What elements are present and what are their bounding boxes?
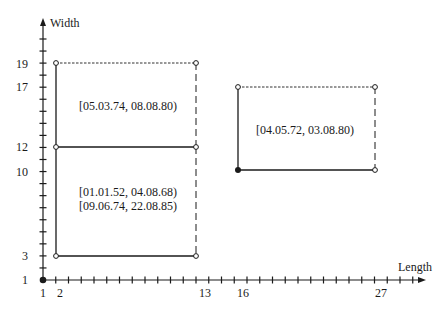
label-upper-left: [05.03.74, 08.08.80) [79,99,177,113]
region-labels: [05.03.74, 08.08.80) [01.01.52, 04.08.68… [79,99,354,213]
open-circle-icon [373,168,378,173]
y-tick-label: 1 [22,273,28,287]
diagram-canvas: Width Length 19 17 12 10 3 1 1 2 13 16 2… [0,0,447,313]
open-circle-icon [54,145,59,150]
label-lower-left-2: [09.06.74, 22.08.85) [79,199,177,213]
y-tick-label: 3 [22,249,28,263]
x-tick-label: 16 [237,286,249,300]
x-tick-label: 2 [57,286,63,300]
y-tick-label: 12 [16,140,28,154]
y-axis [40,18,47,280]
open-circle-icon [236,85,241,90]
rect-lower-left [56,63,196,256]
open-circle-icon [54,254,59,259]
open-circle-icon [194,145,199,150]
x-tick-label: 13 [199,286,211,300]
y-axis-arrow-icon [40,18,46,26]
origin-filled-circle-icon [40,277,47,284]
open-circle-icon [194,254,199,259]
y-axis-title: Width [50,16,80,30]
y-tick-label: 19 [16,57,28,71]
filled-circle-icon [235,167,241,173]
open-endpoints [54,61,378,259]
open-circle-icon [373,85,378,90]
x-tick-labels: 1 2 13 16 27 [40,286,387,300]
y-tick-label: 10 [16,165,28,179]
y-tick-label: 17 [16,80,28,94]
x-axis-arrow-icon [418,277,426,283]
open-circle-icon [194,61,199,66]
open-circle-icon [54,61,59,66]
x-tick-label: 1 [40,286,46,300]
x-axis-title: Length [398,260,432,274]
y-tick-labels: 19 17 12 10 3 1 [16,57,28,287]
label-right: [04.05.72, 03.08.80) [256,123,354,137]
label-lower-left-1: [01.01.52, 04.08.68) [79,185,177,199]
x-axis [43,277,426,284]
x-tick-label: 27 [375,286,387,300]
